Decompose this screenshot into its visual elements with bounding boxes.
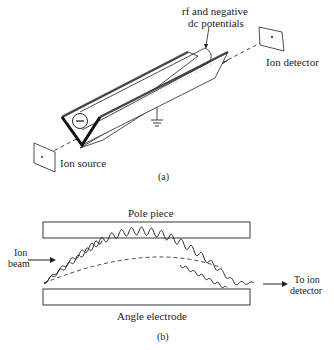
label-to-detector-line2: detector bbox=[290, 285, 323, 296]
arrow-right-icon bbox=[50, 257, 56, 263]
label-ion-detector: Ion detector bbox=[266, 56, 319, 68]
ideal-trajectory bbox=[44, 257, 222, 283]
arrow-right-icon bbox=[282, 281, 288, 287]
ground-icon bbox=[151, 107, 163, 126]
label-potentials-line1: rf and negative bbox=[182, 5, 248, 17]
caption-b: (b) bbox=[157, 331, 169, 343]
angle-electrode-b bbox=[43, 289, 250, 305]
figure-b: Pole piece Angle electrode Ion beam To i… bbox=[8, 207, 323, 343]
label-angle-electrode: Angle electrode bbox=[117, 310, 187, 322]
diagram-canvas: rf and negative dc potentials Ion detect… bbox=[0, 0, 334, 350]
ion-trajectory-short bbox=[44, 241, 102, 284]
label-to-detector-line1: To ion bbox=[294, 274, 320, 285]
label-pole-piece: Pole piece bbox=[128, 207, 174, 219]
label-ion-beam-line2: beam bbox=[8, 258, 30, 269]
ion-detector-plate bbox=[259, 27, 284, 51]
caption-a: (a) bbox=[158, 171, 169, 183]
label-ion-source: Ion source bbox=[60, 157, 106, 169]
angle-electrode-a bbox=[62, 50, 228, 148]
potentials-pointer bbox=[206, 27, 209, 46]
figure-a: rf and negative dc potentials Ion detect… bbox=[34, 5, 319, 183]
label-ion-beam-line1: Ion bbox=[14, 247, 27, 258]
ion-source-plate bbox=[34, 143, 55, 172]
label-potentials-line2: dc potentials bbox=[188, 17, 244, 29]
